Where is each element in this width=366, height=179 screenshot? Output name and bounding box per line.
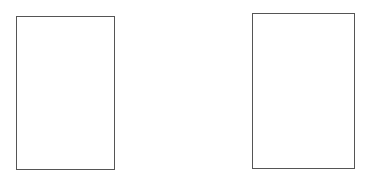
right-empty-rectangle bbox=[252, 13, 355, 169]
left-empty-rectangle bbox=[16, 16, 115, 170]
